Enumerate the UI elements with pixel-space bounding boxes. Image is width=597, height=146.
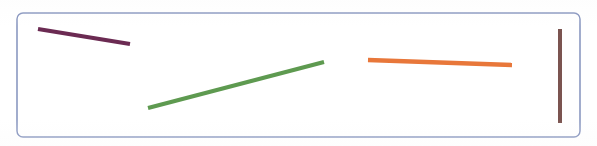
line-segments-figure <box>0 0 597 146</box>
figure-canvas <box>0 0 597 146</box>
panel-border <box>17 13 580 137</box>
